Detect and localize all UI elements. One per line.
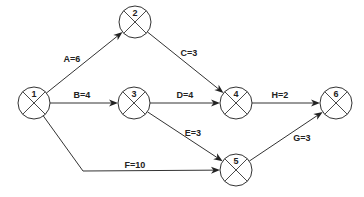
node-2: 2 <box>119 6 151 38</box>
node-label: 6 <box>333 89 338 99</box>
edge-label-B: B=4 <box>74 90 91 100</box>
node-5: 5 <box>220 154 252 186</box>
edge-label-F: F=10 <box>125 160 146 170</box>
arrowhead-icon <box>214 85 223 93</box>
edge-labels-layer: A=6B=4C=3D=4E=3F=10G=3H=2 <box>64 48 311 170</box>
arrowhead-icon <box>313 112 322 120</box>
edge-label-C: C=3 <box>181 48 198 58</box>
node-label: 3 <box>131 89 136 99</box>
edge-B <box>50 100 118 107</box>
edge-label-G: G=3 <box>293 133 310 143</box>
arrowhead-icon <box>113 32 122 40</box>
edge-line <box>147 32 218 89</box>
edge-label-A: A=6 <box>64 54 81 64</box>
edge-line <box>147 112 217 158</box>
network-diagram: 123456 A=6B=4C=3D=4E=3F=10G=3H=2 <box>0 0 364 197</box>
edge-H <box>252 100 320 107</box>
node-1: 1 <box>18 87 50 119</box>
node-label: 4 <box>233 89 238 99</box>
edge-C <box>147 32 223 93</box>
edge-A <box>46 32 122 93</box>
node-label: 1 <box>31 89 36 99</box>
node-label: 5 <box>233 156 238 166</box>
edge-label-E: E=3 <box>185 128 201 138</box>
edge-label-D: D=4 <box>177 90 194 100</box>
node-4: 4 <box>220 87 252 119</box>
node-label: 2 <box>132 8 137 18</box>
node-6: 6 <box>320 87 352 119</box>
edge-label-H: H=2 <box>272 90 289 100</box>
edge-line <box>46 36 117 93</box>
edge-D <box>150 100 220 107</box>
node-3: 3 <box>118 87 150 119</box>
edge-G <box>249 112 322 161</box>
arrowhead-icon <box>213 153 222 161</box>
